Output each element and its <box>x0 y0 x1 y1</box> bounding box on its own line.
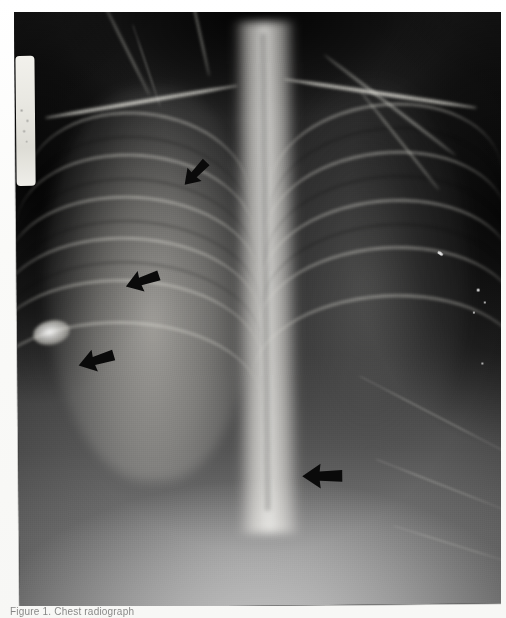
screenshot-root: Figure 1. Chest radiograph <box>0 0 506 618</box>
radiograph-plate <box>14 12 501 606</box>
side-marker-strip <box>15 56 35 186</box>
arrow-glyph-icon <box>299 453 345 499</box>
arrow-4 <box>299 453 345 499</box>
calcific-fleck-4 <box>481 363 483 365</box>
calcific-fleck-3 <box>473 312 475 314</box>
figure-caption: Figure 1. Chest radiograph <box>10 604 480 618</box>
radiograph-frame <box>14 12 501 606</box>
